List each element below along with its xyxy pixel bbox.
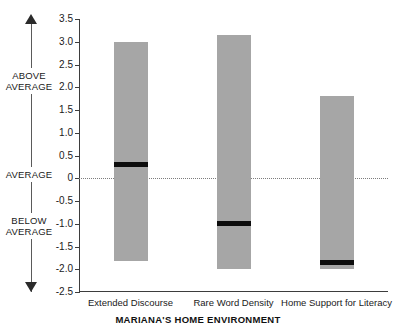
bar-range: [114, 42, 148, 261]
x-category-label: Extended Discourse: [88, 297, 173, 309]
y-tick-label: -0.5: [56, 196, 73, 206]
y-tick-label: 3.5: [59, 14, 73, 24]
y-tick-label: 0: [67, 173, 73, 183]
y-tick-label: 1.0: [59, 128, 73, 138]
band-label-below: BELOW AVERAGE: [0, 213, 58, 239]
arrow-down-icon: [25, 282, 37, 292]
bar-group: [320, 19, 354, 292]
y-tick-label: -2.5: [56, 287, 73, 297]
x-axis-category-labels: Extended DiscourseRare Word DensityHome …: [79, 297, 388, 311]
arrow-up-icon: [25, 14, 37, 24]
band-label-above: ABOVE AVERAGE: [0, 68, 58, 94]
x-category-label: Home Support for Literacy: [281, 297, 392, 309]
x-category-label: Rare Word Density: [193, 297, 273, 309]
bar-median-marker: [320, 260, 354, 265]
reference-arrow-band: ABOVE AVERAGE AVERAGE BELOW AVERAGE: [0, 0, 58, 330]
y-tick-label: 1.5: [59, 105, 73, 115]
bar-group: [217, 19, 251, 292]
plot-area: 3.53.02.52.01.51.00.50-0.5-1.0-1.5-2.0-2…: [79, 19, 388, 292]
chart-title: MARIANA'S HOME ENVIRONMENT: [0, 314, 396, 325]
bar-range: [320, 96, 354, 269]
band-label-below-line1: BELOW: [0, 215, 58, 226]
y-tick-label: -1.0: [56, 219, 73, 229]
y-tick: [75, 292, 80, 293]
band-label-above-line2: AVERAGE: [0, 81, 58, 92]
band-label-above-line1: ABOVE: [0, 70, 58, 81]
bar-range: [217, 35, 251, 269]
band-label-below-line2: AVERAGE: [0, 226, 58, 237]
bar-median-marker: [114, 162, 148, 167]
chart-container: ABOVE AVERAGE AVERAGE BELOW AVERAGE 3.53…: [0, 0, 396, 330]
y-tick-label: 2.0: [59, 82, 73, 92]
y-tick-label: -1.5: [56, 242, 73, 252]
band-label-average: AVERAGE: [0, 167, 58, 182]
y-tick-label: 2.5: [59, 60, 73, 70]
arrow-shaft: [31, 20, 32, 292]
y-tick-label: 3.0: [59, 37, 73, 47]
bar-series: [79, 19, 388, 292]
bar-group: [114, 19, 148, 292]
y-tick-label: -2.0: [56, 264, 73, 274]
bar-median-marker: [217, 221, 251, 226]
y-tick-label: 0.5: [59, 151, 73, 161]
